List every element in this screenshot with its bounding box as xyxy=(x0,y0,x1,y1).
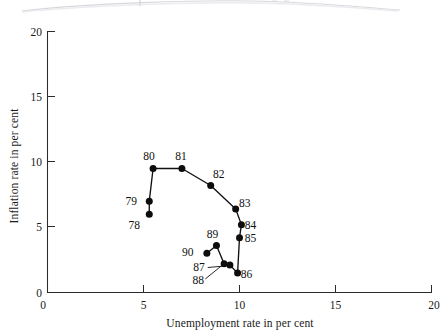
y-axis-title: Inflation rate in per cent xyxy=(8,108,21,224)
phillips-curve-figure: 20 15 10 5 0 0 5 10 15 20 Unemployment r… xyxy=(0,0,448,333)
data-point-88 xyxy=(221,260,228,267)
y-tick-labels: 20 15 10 5 0 xyxy=(31,26,43,299)
data-point-79 xyxy=(146,198,153,205)
x-tick-label-10: 10 xyxy=(234,299,246,311)
x-tick-label-0: 0 xyxy=(40,299,46,311)
point-label-82: 82 xyxy=(213,168,225,180)
x-tick-label-5: 5 xyxy=(141,299,147,311)
point-label-79: 79 xyxy=(126,195,138,207)
y-tick-label-5: 5 xyxy=(36,221,42,233)
x-tick-label-20: 20 xyxy=(428,299,440,311)
data-point-90 xyxy=(203,250,210,257)
data-markers xyxy=(146,165,245,276)
x-tick-label-15: 15 xyxy=(330,299,342,311)
y-tick-label-15: 15 xyxy=(31,91,43,103)
point-label-85: 85 xyxy=(245,232,257,244)
y-tick-label-20: 20 xyxy=(31,26,43,38)
data-point-78 xyxy=(146,211,153,218)
point-label-84: 84 xyxy=(245,219,257,231)
leader-line-88 xyxy=(205,266,221,279)
data-point-80 xyxy=(150,165,157,172)
data-point-87 xyxy=(226,262,233,269)
data-point-labels: 78798081828384858687888990 xyxy=(126,150,257,286)
axes xyxy=(47,31,432,293)
y-tick-label-10: 10 xyxy=(31,156,43,168)
y-tick-label-0: 0 xyxy=(36,287,42,299)
point-label-78: 78 xyxy=(129,219,141,231)
point-label-81: 81 xyxy=(175,150,187,162)
point-label-86: 86 xyxy=(241,268,253,280)
data-series-group: 78798081828384858687888990 xyxy=(126,150,257,286)
point-label-87: 87 xyxy=(193,261,205,273)
data-point-82 xyxy=(207,182,214,189)
x-axis-title: Unemployment rate in per cent xyxy=(166,317,314,330)
data-point-81 xyxy=(178,165,185,172)
data-point-89 xyxy=(213,242,220,249)
label-leader-lines xyxy=(205,266,226,279)
chart-canvas: 20 15 10 5 0 0 5 10 15 20 Unemployment r… xyxy=(0,0,448,333)
x-tick-labels: 0 5 10 15 20 xyxy=(40,299,440,311)
x-axis-ticks xyxy=(144,285,432,293)
point-label-89: 89 xyxy=(207,228,219,240)
point-label-80: 80 xyxy=(143,150,155,162)
point-label-90: 90 xyxy=(182,246,194,258)
series-polyline xyxy=(149,169,241,273)
data-point-85 xyxy=(236,234,243,241)
point-label-88: 88 xyxy=(192,274,204,286)
point-label-83: 83 xyxy=(239,197,251,209)
y-axis-ticks xyxy=(48,32,56,227)
